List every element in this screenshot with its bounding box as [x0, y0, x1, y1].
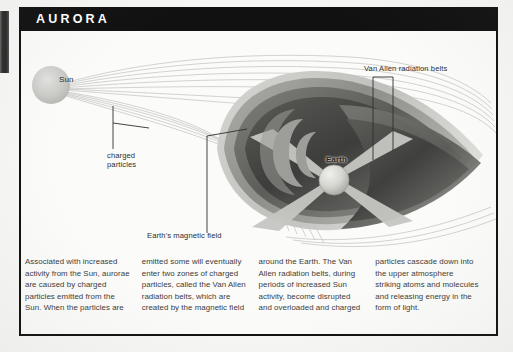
magnetosphere-diagram: Sun charged particles Earth's magnetic f… — [21, 31, 496, 255]
title-banner: AURORA — [21, 9, 496, 31]
sun-body — [32, 66, 70, 104]
caption-text-4: particles cascade down into the upper at… — [375, 256, 480, 314]
page-title: AURORA — [36, 12, 110, 26]
caption-text-1: Associated with increased activity from … — [25, 256, 130, 314]
caption-column-2: emitted some will eventually enter two z… — [142, 256, 259, 334]
label-sun: Sun — [59, 75, 74, 84]
caption-text-3: around the Earth. The Van Allen radiatio… — [259, 256, 364, 314]
label-earth-magnetic-field: Earth's magnetic field — [147, 231, 222, 240]
caption-text-2: emitted some will eventually enter two z… — [142, 256, 247, 314]
margin-index-tab — [0, 11, 9, 73]
caption-block: Associated with increased activity from … — [19, 256, 498, 334]
label-earth: Earth — [326, 155, 347, 164]
caption-column-1: Associated with increased activity from … — [25, 256, 142, 334]
label-charged-particles: charged particles — [107, 151, 136, 170]
leader-charged-particles-tick — [113, 123, 149, 128]
caption-column-3: around the Earth. The Van Allen radiatio… — [259, 256, 376, 334]
label-van-allen-radiation-belts: Van Allen radiation belts — [364, 64, 447, 73]
caption-column-4: particles cascade down into the upper at… — [375, 256, 492, 334]
